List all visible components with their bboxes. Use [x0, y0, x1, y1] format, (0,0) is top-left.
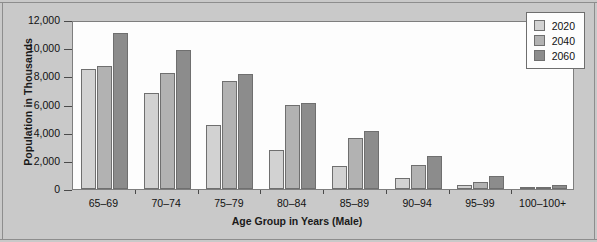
page-border-bottom [0, 239, 597, 240]
legend-label: 2040 [552, 35, 575, 47]
y-axis-tick-label: 0 [0, 183, 60, 195]
x-axis-tick [198, 190, 199, 194]
bar-2020-85–89 [332, 166, 347, 189]
bar-2020-90–94 [395, 178, 410, 189]
x-axis-tick [323, 190, 324, 194]
bar-2060-75–79 [238, 74, 253, 189]
page-border-top [0, 2, 597, 3]
x-axis-tick-label: 85–89 [340, 197, 369, 209]
x-axis-tick-label: 90–94 [403, 197, 432, 209]
y-axis-tick [64, 162, 72, 163]
plot-area [72, 21, 574, 190]
y-axis-tick-label: 10,000 [0, 42, 60, 54]
x-axis-tick [135, 190, 136, 194]
bar-2040-95–99 [473, 182, 488, 189]
bar-2020-100–100+ [520, 187, 535, 189]
y-axis-tick [64, 190, 72, 191]
y-axis-tick-label: 8,000 [0, 70, 60, 82]
bar-2020-65–69 [81, 69, 96, 189]
bar-2060-80–84 [301, 103, 316, 189]
legend-label: 2060 [552, 50, 575, 62]
y-axis-tick-label: 6,000 [0, 99, 60, 111]
bar-2060-85–89 [364, 131, 379, 189]
bar-2040-80–84 [285, 105, 300, 189]
bar-2040-70–74 [160, 73, 175, 189]
legend-swatch-icon [534, 35, 545, 46]
bar-2040-90–94 [411, 165, 426, 189]
bar-2040-85–89 [348, 138, 363, 189]
chart-legend: 202020402060 [526, 12, 585, 69]
x-axis-title: Age Group in Years (Male) [72, 215, 522, 227]
x-axis-tick-label: 100–100+ [519, 197, 566, 209]
chart-page: Population in Thousands Age Group in Yea… [0, 0, 597, 242]
y-axis-tick-label: 4,000 [0, 127, 60, 139]
y-axis-tick [64, 134, 72, 135]
legend-swatch-icon [534, 50, 545, 61]
legend-label: 2020 [552, 20, 575, 32]
bar-2060-90–94 [427, 156, 442, 189]
page-border-left [2, 2, 3, 240]
bar-2060-100–100+ [552, 185, 567, 189]
x-axis-tick-label: 75–79 [214, 197, 243, 209]
bar-2060-70–74 [176, 50, 191, 189]
x-axis-tick [449, 190, 450, 194]
bar-2020-80–84 [269, 150, 284, 189]
bar-2040-75–79 [222, 81, 237, 189]
legend-item-2060: 2060 [534, 48, 575, 63]
legend-item-2020: 2020 [534, 18, 575, 33]
bar-2060-95–99 [489, 176, 504, 189]
x-axis-tick-label: 65–69 [89, 197, 118, 209]
y-axis-tick [64, 49, 72, 50]
y-axis-tick [64, 106, 72, 107]
legend-swatch-icon [534, 20, 545, 31]
x-axis-tick [386, 190, 387, 194]
bar-2020-95–99 [457, 185, 472, 189]
bar-2040-100–100+ [536, 187, 551, 189]
y-axis-tick-label: 12,000 [0, 14, 60, 26]
bar-2020-75–79 [206, 125, 221, 189]
bar-2040-65–69 [97, 66, 112, 189]
x-axis-tick [260, 190, 261, 194]
y-axis-tick-label: 2,000 [0, 155, 60, 167]
bar-2060-65–69 [113, 33, 128, 189]
bar-2020-70–74 [144, 93, 159, 189]
x-axis-tick-label: 80–84 [277, 197, 306, 209]
y-axis-tick [64, 77, 72, 78]
y-axis-tick [64, 21, 72, 22]
x-axis-tick-label: 95–99 [465, 197, 494, 209]
legend-item-2040: 2040 [534, 33, 575, 48]
page-border-right [594, 2, 595, 240]
x-axis-tick [511, 190, 512, 194]
x-axis-tick-label: 70–74 [152, 197, 181, 209]
